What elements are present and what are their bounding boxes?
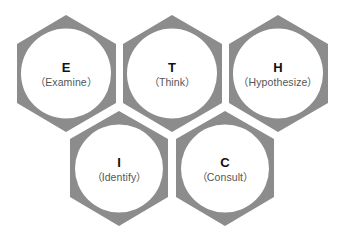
node-label: （Examine）: [16, 76, 116, 89]
node-letter: T: [122, 61, 222, 75]
node-label: （Identify）: [69, 171, 169, 184]
node-letter: E: [16, 61, 116, 75]
node-examine: E （Examine）: [16, 61, 116, 89]
node-letter: C: [175, 156, 275, 170]
node-label: （Hypothesize）: [228, 76, 328, 89]
node-consult: C （Consult）: [175, 156, 275, 184]
node-identify: I （Identify）: [69, 156, 169, 184]
node-hypothesize: H （Hypothesize）: [228, 61, 328, 89]
node-label: （Think）: [122, 76, 222, 89]
node-think: T （Think）: [122, 61, 222, 89]
node-letter: I: [69, 156, 169, 170]
node-label: （Consult）: [175, 171, 275, 184]
node-letter: H: [228, 61, 328, 75]
hexagon-diagram: [0, 0, 345, 246]
